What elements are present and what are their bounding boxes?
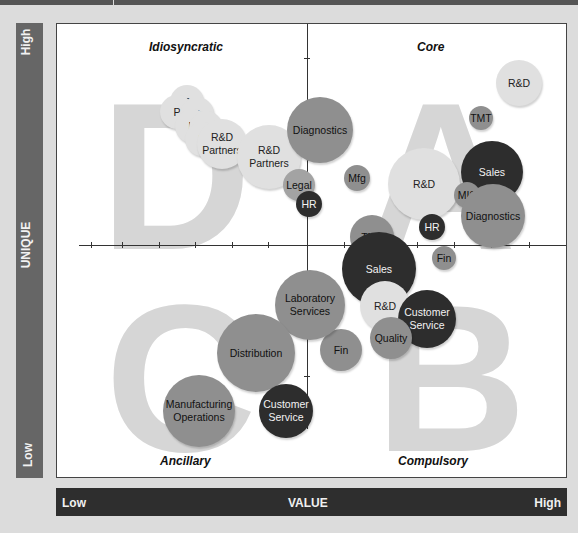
- bubble-diagnostics: Diagnostics: [461, 184, 525, 248]
- quadrant-label-compulsory: Compulsory: [398, 454, 468, 468]
- x-axis-title: VALUE: [288, 496, 328, 510]
- bubble-manufacturing-operations: Manufacturing Operations: [163, 375, 235, 447]
- bubble-mfg: Mfg: [344, 165, 370, 191]
- bubble-hr: HR: [296, 191, 322, 217]
- bubble-hr: HR: [419, 214, 445, 240]
- x-axis-low-label: Low: [62, 496, 86, 510]
- tick: [417, 242, 418, 248]
- bubble-r-d: R&D: [388, 148, 460, 220]
- bubble-diagnostics: Diagnostics: [287, 97, 353, 163]
- bubble-r-d: R&D: [496, 60, 542, 106]
- quadrant-label-core: Core: [417, 40, 444, 54]
- tick: [195, 242, 196, 248]
- top-border: [0, 0, 578, 5]
- tick: [529, 242, 530, 248]
- tick: [159, 242, 160, 248]
- tick: [232, 242, 233, 248]
- x-axis-band: Low VALUE High: [56, 488, 567, 516]
- bubble-fin: Fin: [432, 246, 456, 270]
- matrix-plot: D A C B Idiosyncratic Core Ancillary Com…: [56, 23, 567, 478]
- bubble-quality: Quality: [370, 317, 412, 359]
- top-tick: [113, 0, 114, 5]
- bubble-distribution: Distribution: [217, 314, 295, 392]
- bubble-customer-service: Customer Service: [259, 384, 313, 438]
- y-axis-low-label: Low: [21, 443, 35, 467]
- y-axis-title: UNIQUE: [19, 222, 33, 269]
- tick: [304, 58, 310, 59]
- bubble-tmt: TMT: [469, 106, 493, 130]
- y-axis-band: High UNIQUE Low: [16, 23, 43, 478]
- tick: [91, 242, 92, 248]
- tick: [304, 376, 310, 377]
- x-axis-high-label: High: [534, 496, 561, 510]
- tick: [454, 242, 455, 248]
- vertical-axis: [307, 24, 308, 429]
- tick: [268, 242, 269, 248]
- quadrant-label-idiosyncratic: Idiosyncratic: [149, 40, 223, 54]
- y-axis-high-label: High: [19, 29, 33, 56]
- tick: [122, 242, 123, 248]
- tick: [344, 242, 345, 248]
- quadrant-label-ancillary: Ancillary: [160, 454, 211, 468]
